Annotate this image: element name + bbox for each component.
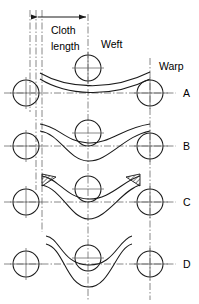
row-label-C: C [183, 196, 191, 208]
cloth-length-label-line2: length [51, 40, 80, 52]
cloth-length-label-line1: Cloth [51, 24, 76, 36]
weave-crimp-figure: Cloth length Weft Warp A B C D [0, 0, 199, 304]
row-label-D: D [183, 258, 191, 270]
warp-label: Warp [159, 60, 184, 72]
weft-label: Weft [101, 38, 122, 50]
row-label-A: A [183, 87, 190, 99]
row-label-B: B [183, 140, 190, 152]
weave-diagram-canvas: Cloth length Weft Warp A B C D [0, 0, 199, 304]
